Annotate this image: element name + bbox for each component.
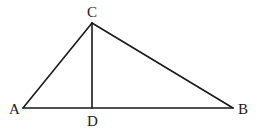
- segment-bc: [92, 23, 233, 108]
- label-d: D: [87, 113, 98, 129]
- label-a: A: [9, 101, 20, 117]
- segment-ac: [23, 23, 92, 108]
- label-b: B: [238, 101, 248, 117]
- label-c: C: [87, 4, 97, 20]
- triangle-diagram: C A D B: [0, 0, 256, 132]
